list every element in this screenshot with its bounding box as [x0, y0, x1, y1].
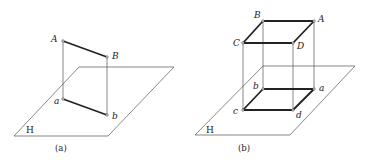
- point-A: [62, 40, 64, 42]
- point-a: [62, 98, 64, 100]
- label-D: D: [296, 41, 304, 51]
- point-B: [262, 20, 264, 22]
- segment-AB: [63, 41, 107, 57]
- point-A: [313, 20, 315, 22]
- point-b: [262, 88, 264, 90]
- label-a: a: [319, 83, 324, 93]
- label-B: B: [253, 10, 261, 20]
- label-A: A: [317, 14, 325, 24]
- plane-h: [14, 67, 174, 136]
- caption-b: (b): [238, 143, 250, 153]
- plane-label-h: H: [26, 125, 34, 135]
- point-c: [242, 109, 244, 111]
- label-B: B: [111, 51, 119, 61]
- segment-ab-projection: [63, 99, 107, 115]
- projection-diagram: A B a b H (a) B A C D b a c d H (b: [0, 0, 369, 164]
- point-B: [106, 56, 108, 58]
- plane-label-h: H: [206, 125, 214, 135]
- point-D: [292, 42, 294, 44]
- plane-h: [195, 66, 355, 135]
- square-abcd-projection: [243, 89, 314, 110]
- label-b: b: [253, 81, 259, 91]
- panel-b: B A C D b a c d H (b): [195, 10, 355, 153]
- square-ABCD: [243, 21, 314, 43]
- caption-a: (a): [55, 143, 67, 153]
- point-b: [106, 114, 108, 116]
- label-d: d: [296, 110, 302, 120]
- point-C: [242, 42, 244, 44]
- label-C: C: [233, 38, 240, 48]
- label-c: c: [233, 106, 238, 116]
- label-A: A: [50, 34, 58, 44]
- panel-a: A B a b H (a): [14, 34, 174, 153]
- label-a: a: [54, 96, 59, 106]
- label-b: b: [112, 111, 118, 121]
- point-a: [313, 88, 315, 90]
- point-d: [292, 109, 294, 111]
